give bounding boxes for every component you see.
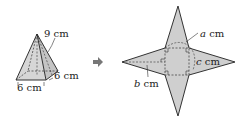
base-depth-label: 6 cm <box>54 70 79 81</box>
right-arrow-icon <box>93 57 103 67</box>
net-label-a: a cm <box>200 28 225 39</box>
unit-b: cm <box>140 78 159 89</box>
slant-height-label: 9 cm <box>44 28 69 39</box>
net-label-b: b cm <box>134 78 159 89</box>
unit-c: cm <box>202 56 221 67</box>
unit-a: cm <box>206 28 225 39</box>
net-label-c: c cm <box>196 56 220 67</box>
base-side-label: 6 cm <box>17 82 42 93</box>
figure: 9 cm 6 cm 6 cm a cm c cm b cm <box>0 0 248 125</box>
pyramid <box>16 34 58 86</box>
